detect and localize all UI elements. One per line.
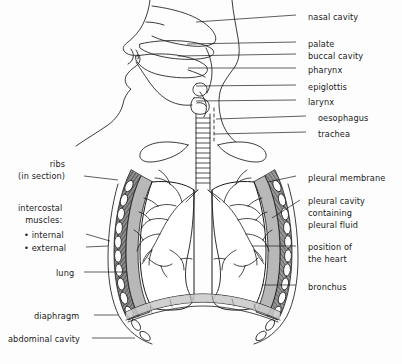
label-pleural-cavity-line-2: pleural fluid bbox=[308, 219, 365, 231]
clavicle-left bbox=[140, 142, 188, 162]
label-position-of-heart-line-1: the heart bbox=[308, 253, 352, 265]
label-ribs: ribs(in section) bbox=[18, 158, 65, 182]
head-profile-outline bbox=[76, 0, 244, 148]
label-bronchus: bronchus bbox=[308, 281, 347, 293]
leader-buccal-cavity bbox=[178, 54, 296, 56]
leader-palate bbox=[187, 42, 296, 44]
label-diaphragm: diaphragm bbox=[34, 310, 79, 322]
label-intercostal-external: • external bbox=[24, 242, 66, 254]
label-epiglottis: epiglottis bbox=[308, 81, 347, 93]
leader-intercostal-external bbox=[86, 246, 108, 247]
leader-larynx bbox=[196, 100, 296, 101]
label-bronchus-line-0: bronchus bbox=[308, 281, 347, 293]
label-lung: lung bbox=[56, 267, 74, 279]
label-ribs-line-1: (in section) bbox=[18, 170, 65, 182]
label-abdominal-cavity: abdominal cavity bbox=[8, 333, 80, 345]
label-position-of-heart: position ofthe heart bbox=[308, 241, 352, 265]
label-intercostal-muscles-line-0: intercostal bbox=[18, 202, 62, 214]
label-pleural-cavity-line-0: pleural cavity bbox=[308, 195, 365, 207]
clavicle-right bbox=[218, 142, 266, 162]
label-intercostal-internal-line-0: • internal bbox=[24, 229, 64, 241]
label-trachea: trachea bbox=[318, 128, 350, 140]
label-oesophagus: oesophagus bbox=[318, 112, 368, 124]
label-pharynx-line-0: pharynx bbox=[308, 64, 342, 76]
label-abdominal-cavity-line-0: abdominal cavity bbox=[8, 333, 80, 345]
label-intercostal-muscles: intercostalmuscles: bbox=[18, 202, 62, 226]
label-pleural-membrane: pleural membrane bbox=[308, 172, 385, 184]
label-intercostal-external-line-0: • external bbox=[24, 242, 66, 254]
leader-epiglottis bbox=[196, 85, 296, 86]
label-larynx: larynx bbox=[308, 96, 334, 108]
label-nasal-cavity-line-0: nasal cavity bbox=[308, 11, 358, 23]
label-palate: palate bbox=[308, 38, 334, 50]
label-pleural-cavity-line-1: containing bbox=[308, 207, 365, 219]
leader-ribs bbox=[84, 176, 118, 180]
label-position-of-heart-line-0: position of bbox=[308, 241, 352, 253]
label-palate-line-0: palate bbox=[308, 38, 334, 50]
label-oesophagus-line-0: oesophagus bbox=[318, 112, 368, 124]
label-buccal-cavity: buccal cavity bbox=[308, 50, 363, 62]
label-nasal-cavity: nasal cavity bbox=[308, 11, 358, 23]
label-ribs-line-0: ribs bbox=[18, 158, 65, 170]
label-trachea-line-0: trachea bbox=[318, 128, 350, 140]
buccal-cavity-shape bbox=[128, 49, 207, 78]
label-epiglottis-line-0: epiglottis bbox=[308, 81, 347, 93]
trachea bbox=[196, 114, 210, 190]
label-pleural-cavity: pleural cavitycontainingpleural fluid bbox=[308, 195, 365, 231]
lung-left bbox=[140, 181, 194, 310]
leader-oesophagus bbox=[216, 116, 306, 119]
nasal-cavity-shape bbox=[146, 6, 216, 46]
leader-nasal-cavity bbox=[196, 15, 296, 22]
label-diaphragm-line-0: diaphragm bbox=[34, 310, 79, 322]
leader-intercostal-internal bbox=[86, 234, 110, 241]
label-pharynx: pharynx bbox=[308, 64, 342, 76]
label-intercostal-internal: • internal bbox=[24, 229, 64, 241]
label-buccal-cavity-line-0: buccal cavity bbox=[308, 50, 363, 62]
label-lung-line-0: lung bbox=[56, 267, 74, 279]
label-pleural-membrane-line-0: pleural membrane bbox=[308, 172, 385, 184]
label-larynx-line-0: larynx bbox=[308, 96, 334, 108]
label-intercostal-muscles-line-1: muscles: bbox=[18, 214, 62, 226]
